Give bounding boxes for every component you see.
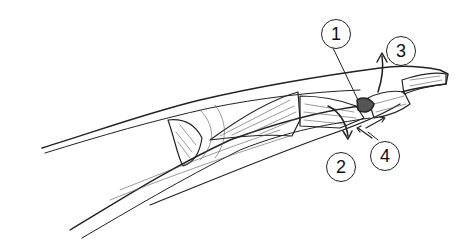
callout-4-label: 4: [380, 146, 390, 167]
callout-4: 4: [370, 141, 400, 171]
callout-2-label: 2: [336, 157, 346, 178]
callout-3: 3: [386, 36, 416, 66]
callout-2: 2: [326, 152, 356, 182]
callout-1-label: 1: [331, 24, 341, 45]
callout-1: 1: [321, 19, 351, 49]
callout-3-label: 3: [396, 41, 406, 62]
